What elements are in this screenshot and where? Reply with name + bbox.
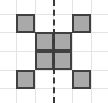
line-of-symmetry xyxy=(53,0,55,103)
bottom-left-square xyxy=(16,70,35,89)
center-lower-left-square xyxy=(35,51,54,70)
center-lower-right-square xyxy=(53,51,72,70)
bottom-right-square xyxy=(72,70,91,89)
top-left-square xyxy=(16,14,35,33)
center-upper-right-square xyxy=(53,32,72,51)
symmetry-figure xyxy=(0,0,108,103)
top-right-square xyxy=(72,14,91,33)
center-upper-left-square xyxy=(35,32,54,51)
